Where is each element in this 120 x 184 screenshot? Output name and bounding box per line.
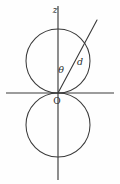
tangent-circles-diagram: z θ d O	[0, 0, 120, 184]
distance-d-label: d	[77, 56, 83, 67]
angle-theta-label: θ	[58, 64, 64, 75]
figure-container: z θ d O	[0, 0, 120, 184]
origin-label: O	[53, 96, 60, 106]
z-axis-label: z	[52, 5, 58, 15]
